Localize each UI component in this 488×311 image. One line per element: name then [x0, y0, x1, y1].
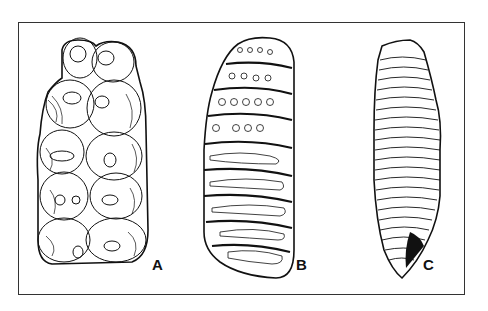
teeth-illustration	[0, 0, 488, 311]
tooth-a-drawing	[37, 38, 148, 264]
panel-label-b: B	[296, 256, 307, 273]
panel-label-c: C	[423, 256, 434, 273]
tooth-c-drawing	[374, 40, 441, 278]
tooth-b-drawing	[204, 38, 294, 278]
panel-label-a: A	[152, 256, 163, 273]
